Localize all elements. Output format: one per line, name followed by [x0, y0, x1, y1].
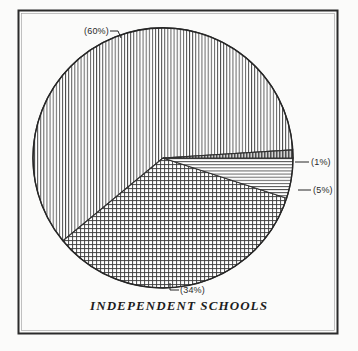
chart-title: INDEPENDENT SCHOOLS — [0, 298, 358, 314]
pie-label-1: (1%) — [311, 158, 331, 167]
pie-label-5: (5%) — [313, 186, 333, 195]
pie-label-60: (60%) — [84, 27, 109, 36]
pie-label-34: (34%) — [180, 286, 205, 295]
pie-chart-figure: (60%) (1%) (5%) (34%) INDEPENDENT SCHOOL… — [0, 0, 358, 351]
